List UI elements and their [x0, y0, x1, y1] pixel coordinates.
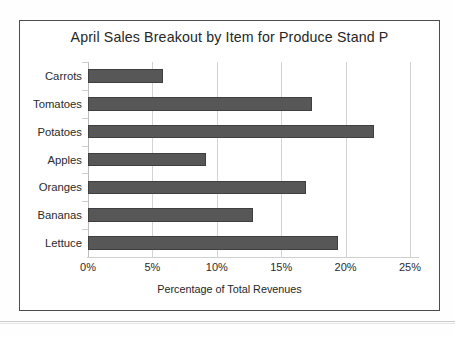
bar-row	[88, 69, 410, 83]
x-axis-title: Percentage of Total Revenues	[20, 283, 439, 295]
bar-apples	[88, 153, 206, 167]
x-tick-label-20pct: 20%	[335, 261, 357, 273]
gridline-25pct	[410, 62, 411, 257]
category-label-bananas: Bananas	[37, 209, 82, 221]
x-tick-label-5pct: 5%	[144, 261, 160, 273]
x-axis-tick-labels: 0%5%10%15%20%25%	[88, 261, 410, 279]
bar-row	[88, 181, 410, 195]
bar-carrots	[88, 69, 163, 83]
scan-artifact-line	[0, 321, 455, 322]
x-tick-label-25pct: 25%	[399, 261, 421, 273]
x-tick-label-10pct: 10%	[206, 261, 228, 273]
bar-lettuce	[88, 236, 338, 250]
bar-row	[88, 208, 410, 222]
category-tick	[82, 90, 88, 91]
chart-figure-frame: April Sales Breakout by Item for Produce…	[19, 20, 440, 311]
bar-row	[88, 153, 410, 167]
bar-row	[88, 97, 410, 111]
category-tick	[82, 118, 88, 119]
chart-title: April Sales Breakout by Item for Produce…	[20, 29, 439, 45]
category-tick	[82, 201, 88, 202]
bar-tomatoes	[88, 97, 312, 111]
x-tick-label-15pct: 15%	[270, 261, 292, 273]
scan-artifact-line-faint	[0, 323, 455, 324]
bar-potatoes	[88, 125, 374, 139]
category-label-carrots: Carrots	[45, 70, 82, 82]
category-tick	[82, 146, 88, 147]
category-tick	[82, 173, 88, 174]
x-tick-label-0pct: 0%	[80, 261, 96, 273]
category-tick	[82, 62, 88, 63]
category-tick	[82, 229, 88, 230]
category-label-oranges: Oranges	[39, 181, 82, 193]
category-label-lettuce: Lettuce	[45, 237, 82, 249]
bar-bananas	[88, 208, 253, 222]
bar-oranges	[88, 181, 306, 195]
category-label-tomatoes: Tomatoes	[33, 98, 82, 110]
category-label-apples: Apples	[47, 154, 82, 166]
bar-row	[88, 236, 410, 250]
scanned-page: April Sales Breakout by Item for Produce…	[0, 0, 455, 337]
category-axis-labels: CarrotsTomatoesPotatoesApplesOrangesBana…	[30, 62, 82, 257]
category-label-potatoes: Potatoes	[37, 126, 82, 138]
x-axis-line	[87, 257, 419, 258]
plot-area	[88, 62, 410, 257]
bar-row	[88, 125, 410, 139]
